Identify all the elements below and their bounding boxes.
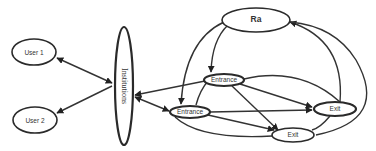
graph-svg: User 1 User 2 Institutions Ra Entrance E… — [0, 0, 376, 151]
edge-ra-entrance-top — [211, 25, 228, 72]
edge-entrance-bottom-exit-right — [210, 110, 312, 112]
edge-institutions-entrance-bottom — [135, 97, 169, 111]
node-exit-right[interactable]: Exit — [314, 102, 356, 116]
edge-exit-right-ra — [290, 22, 340, 102]
node-entrance-top-label: Entrance — [211, 76, 237, 83]
node-exit-bottom-label: Exit — [288, 131, 299, 138]
edge-institutions-user1 — [57, 58, 112, 83]
node-user1-label: User 1 — [24, 49, 44, 56]
node-user2-label: User 2 — [25, 117, 45, 124]
edge-entrance-top-exit-bottom — [232, 86, 278, 130]
node-entrance-bottom[interactable]: Entrance — [170, 106, 210, 118]
edge-ra-entrance-bottom — [181, 22, 224, 104]
node-institutions-label: Institutions — [120, 68, 129, 104]
node-ra-label: Ra — [251, 14, 262, 24]
edge-entrance-top-exit-right-arc — [244, 76, 340, 102]
node-ra[interactable]: Ra — [222, 8, 290, 32]
diagram-canvas: User 1 User 2 Institutions Ra Entrance E… — [0, 0, 376, 151]
node-entrance-bottom-label: Entrance — [177, 108, 203, 115]
edge-entrance-top-institutions — [135, 81, 205, 95]
edge-exit-right-exit-bottom — [312, 116, 330, 130]
node-exit-bottom[interactable]: Exit — [272, 128, 314, 142]
node-user1[interactable]: User 1 — [12, 39, 56, 65]
node-institutions[interactable]: Institutions — [115, 27, 133, 145]
node-entrance-top[interactable]: Entrance — [204, 74, 244, 86]
edge-entrance-bottom-entrance-top — [196, 81, 208, 105]
node-exit-right-label: Exit — [330, 105, 341, 112]
edge-institutions-user2 — [57, 86, 112, 113]
node-user2[interactable]: User 2 — [13, 107, 57, 133]
